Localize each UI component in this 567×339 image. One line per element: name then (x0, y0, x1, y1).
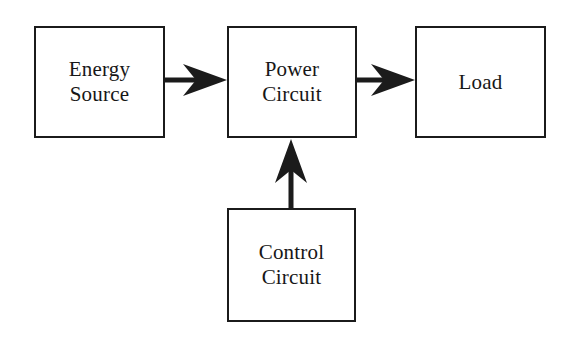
block-power-circuit[interactable]: Power Circuit (227, 26, 357, 138)
connector-power-circuit-to-load (357, 64, 415, 96)
block-control-circuit[interactable]: Control Circuit (227, 208, 356, 322)
block-energy-source[interactable]: Energy Source (34, 26, 165, 138)
arrowhead-right-icon (371, 64, 415, 96)
block-power-circuit-label-line-1: Power (265, 57, 320, 82)
arrowhead-right-icon (183, 64, 227, 96)
block-energy-source-label-line-1: Energy (69, 57, 130, 82)
block-load[interactable]: Load (415, 26, 546, 138)
block-load-label-line-1: Load (459, 70, 503, 95)
block-control-circuit-label-line-2: Circuit (262, 265, 322, 290)
connector-control-circuit-to-power-circuit (275, 139, 307, 210)
block-control-circuit-label-line-1: Control (259, 240, 325, 265)
block-power-circuit-label-line-2: Circuit (262, 82, 322, 107)
arrowhead-up-icon (275, 139, 307, 183)
connector-tail (165, 78, 207, 83)
connector-energy-source-to-power-circuit (165, 64, 227, 96)
block-diagram-canvas: Energy Source Power Circuit Load Control… (0, 0, 567, 339)
connector-tail (357, 78, 395, 83)
connector-tail (289, 168, 294, 210)
block-energy-source-label-line-2: Source (70, 82, 130, 107)
